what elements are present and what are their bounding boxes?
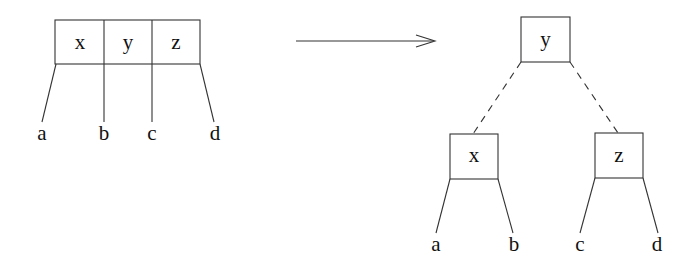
root-key: y [540,27,551,51]
edge-d [643,178,658,233]
dashed-edge-left [473,62,521,134]
edge-a [42,64,56,122]
key-z: z [171,30,180,54]
child-b: b [99,121,110,145]
dashed-edge-right [570,62,618,133]
leaf-a: a [431,232,441,256]
child-a: a [37,121,47,145]
diagram-canvas: x y z a b c d y x z a b c [0,0,695,274]
edge-d [200,64,214,122]
edge-a [436,179,450,233]
binary-tree: y x z a b c d [431,17,662,256]
arrow-right-icon [296,35,435,47]
leaf-d: d [652,232,663,256]
left-key: x [469,143,480,167]
child-d: d [210,121,221,145]
edge-b [498,179,513,233]
key-x: x [75,30,86,54]
four-node: x y z a b c d [37,20,220,145]
child-c: c [147,121,156,145]
key-y: y [123,30,134,54]
leaf-b: b [509,232,520,256]
edge-c [580,178,595,233]
leaf-c: c [575,232,584,256]
right-key: z [614,143,623,167]
